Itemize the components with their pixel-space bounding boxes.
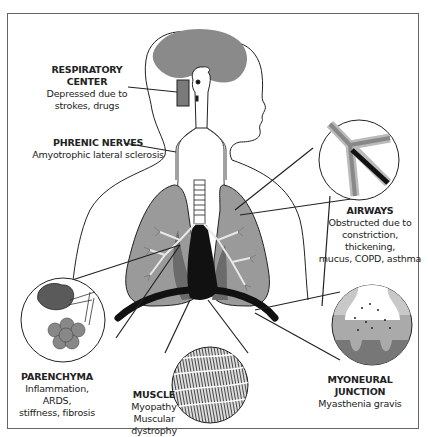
trachea: [194, 180, 205, 224]
airways-inset: [319, 120, 399, 200]
airways-desc-2: constriction, thickening,: [318, 229, 422, 253]
phrenic-nerves-title: PHRENIC NERVES: [28, 137, 168, 149]
muscle-desc-1: Myopathy: [112, 401, 196, 413]
respiratory-center-desc-1: Depressed due to: [32, 88, 142, 100]
myoneural-junction-inset: [330, 285, 415, 370]
muscle-desc-2: Muscular dystrophy: [112, 413, 196, 437]
label-muscle: MUSCLE Myopathy Muscular dystrophy: [112, 389, 196, 437]
parenchyma-title: PARENCHYMA: [12, 371, 102, 383]
brainstem: [192, 67, 210, 128]
parenchyma-desc-2: stiffness, fibrosis: [12, 407, 102, 419]
respiratory-center-desc-2: strokes, drugs: [32, 100, 142, 112]
label-phrenic-nerves: PHRENIC NERVES Amyotrophic lateral scler…: [28, 137, 168, 161]
parenchyma-inset: [21, 278, 105, 362]
phrenic-nerves-desc-1: Amyotrophic lateral sclerosis: [28, 149, 168, 161]
myoneural-junction-desc-1: Myasthenia gravis: [306, 398, 414, 410]
respiratory-center-marker: [177, 80, 189, 106]
label-airways: AIRWAYS Obstructed due to constriction, …: [318, 205, 422, 265]
muscle-title: MUSCLE: [112, 389, 196, 401]
parenchyma-desc-1: Inflammation, ARDS,: [12, 383, 102, 407]
respiratory-center-title: RESPIRATORY CENTER: [32, 64, 142, 88]
airways-desc-1: Obstructed due to: [318, 217, 422, 229]
label-myoneural-junction: MYONEURAL JUNCTION Myasthenia gravis: [306, 374, 414, 410]
myoneural-junction-title: MYONEURAL JUNCTION: [306, 374, 414, 398]
label-parenchyma: PARENCHYMA Inflammation, ARDS, stiffness…: [12, 371, 102, 419]
airways-title: AIRWAYS: [318, 205, 422, 217]
airways-desc-3: mucus, COPD, asthma: [318, 253, 422, 265]
label-respiratory-center: RESPIRATORY CENTER Depressed due to stro…: [32, 64, 142, 112]
